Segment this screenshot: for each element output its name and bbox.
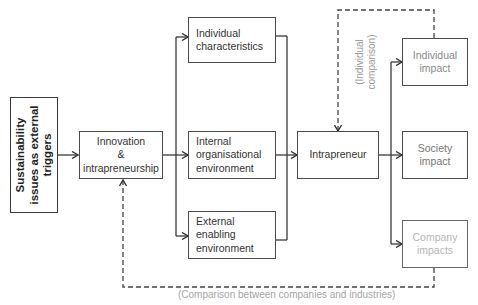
company-comparison-label: (Comparison between companies and indust… xyxy=(178,289,395,300)
sustainability-triggers-label: Sustainability issues as external trigge… xyxy=(14,105,55,204)
external-enabling-environment-box: External enabling environment xyxy=(188,211,276,259)
society-impact-box: Society impact xyxy=(402,131,468,179)
internal-organisational-environment-box: Internal organisational environment xyxy=(188,131,276,179)
individual-impact-box: Individual impact xyxy=(402,38,468,86)
dashed-feedback-company xyxy=(123,180,434,287)
individual-comparison-label: (Individual comparison) xyxy=(354,34,378,89)
individual-characteristics-box: Individual characteristics xyxy=(188,17,276,63)
innovation-intrapreneurship-box: Innovation & intrapreneurship xyxy=(79,131,163,179)
sustainability-triggers-box: Sustainability issues as external trigge… xyxy=(10,97,58,213)
company-impacts-box: Company impacts xyxy=(402,220,468,268)
intrapreneur-box: Intrapreneur xyxy=(297,131,379,179)
